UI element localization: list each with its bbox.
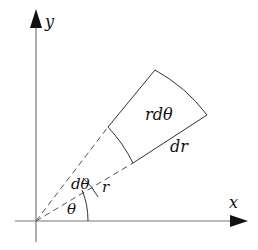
dr-label: dr bbox=[170, 137, 189, 156]
area-label: rdθ bbox=[145, 105, 173, 124]
polar-area-diagram: y x rdθ dr dθ r θ bbox=[0, 0, 258, 250]
theta-label: θ bbox=[67, 200, 76, 218]
x-axis-arrow-icon bbox=[230, 215, 248, 227]
x-axis-label: x bbox=[229, 193, 238, 212]
dtheta-label: dθ bbox=[71, 175, 90, 193]
theta-arc bbox=[82, 190, 88, 221]
y-axis-label: y bbox=[44, 12, 55, 31]
y-axis-arrow-icon bbox=[30, 9, 42, 28]
r-label: r bbox=[102, 178, 110, 196]
